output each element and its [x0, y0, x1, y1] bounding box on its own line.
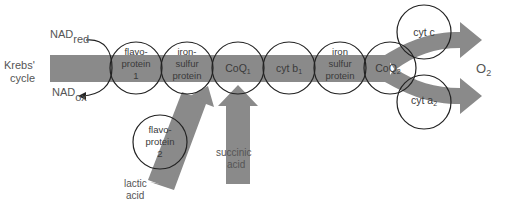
carrier-label-cyt-c: cyt c [413, 26, 435, 38]
lactic-acid-label-line2: acid [126, 190, 144, 201]
carrier-label-iron-sulfur-1-line1: iron- [177, 46, 196, 57]
carrier-label-flavoprotein-2-line2: protein [145, 136, 174, 147]
oxygen-output-label: O2 [476, 61, 491, 78]
nad-ox-label: NADox [52, 86, 87, 103]
krebs-label-line1: Krebs' [4, 59, 35, 71]
krebs-label-line2: cycle [10, 72, 35, 84]
carrier-label-iron-sulfur-2-line1: iron [332, 46, 348, 57]
nad-red-label: NADred [50, 28, 89, 45]
carrier-label-iron-sulfur-1-line3: protein [172, 70, 201, 81]
carrier-label-flavoprotein-2-line3: 2 [157, 148, 162, 159]
succinic-acid-label-line2: acid [227, 159, 245, 170]
carrier-label-flavoprotein-2-line1: flavo- [148, 124, 171, 135]
carrier-label-flavoprotein-1-line2: protein [121, 58, 150, 69]
carrier-label-iron-sulfur-2-line3: protein [325, 70, 354, 81]
succinic-acid-label-line1: succinic [216, 147, 252, 158]
carrier-label-iron-sulfur-2-line2: sulfur [328, 58, 351, 69]
electron-transport-diagram: Krebs' cycle NADred NADox lactic acid su… [0, 0, 506, 213]
carrier-label-flavoprotein-1-line3: 1 [133, 70, 138, 81]
carrier-label-iron-sulfur-1-line2: sulfur [175, 58, 198, 69]
carrier-label-flavoprotein-1-line1: flavo- [124, 46, 147, 57]
lactic-acid-label-line1: lactic [124, 178, 147, 189]
